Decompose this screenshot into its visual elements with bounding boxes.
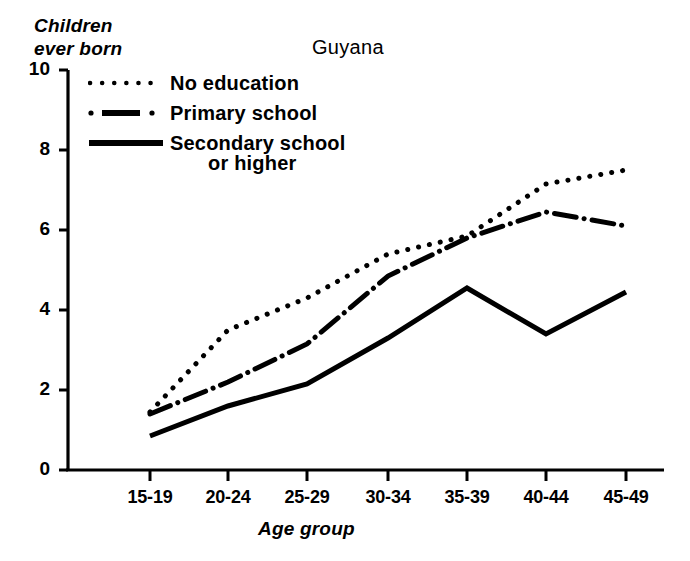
plot-area (0, 0, 690, 561)
y-tick-label: 0 (20, 458, 50, 480)
y-tick-label: 4 (20, 298, 50, 320)
x-axis-ticks (150, 470, 626, 481)
series-line-primary-school (150, 212, 626, 414)
y-tick-label: 8 (20, 138, 50, 160)
x-tick-label: 40-44 (508, 487, 584, 508)
y-tick-label: 6 (20, 218, 50, 240)
x-tick-label: 25-29 (269, 487, 345, 508)
x-tick-label: 45-49 (588, 487, 664, 508)
series-lines (150, 170, 626, 436)
x-axis-title: Age group (258, 518, 355, 540)
chart-figure: Childrenever born Guyana No education Pr… (0, 0, 690, 561)
x-tick-label: 30-34 (350, 487, 426, 508)
series-line-secondary-school-or-higher (150, 288, 626, 436)
series-line-no-education (150, 170, 626, 412)
y-tick-label: 10 (20, 58, 50, 80)
x-tick-label: 20-24 (190, 487, 266, 508)
x-tick-label: 15-19 (112, 487, 188, 508)
axes (59, 70, 664, 481)
y-tick-label: 2 (20, 378, 50, 400)
x-tick-label: 35-39 (429, 487, 505, 508)
